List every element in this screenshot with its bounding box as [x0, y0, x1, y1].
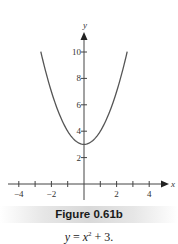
x-axis-arrow-icon: [161, 181, 169, 188]
x-axis-tick-labels: −4−224: [14, 189, 152, 199]
x-tick-label: 2: [114, 189, 119, 199]
equation-rest: + 3.: [92, 230, 114, 244]
x-tick-label: −4: [14, 189, 24, 199]
y-axis-tick-labels: 246810: [72, 47, 82, 163]
equation-equals: =: [70, 230, 83, 244]
y-axis: 246810 y: [72, 20, 88, 200]
y-tick-label: 4: [77, 126, 82, 136]
parabola-plot: −4−224 x 246810 y: [0, 0, 178, 205]
y-axis-arrow-icon: [81, 32, 88, 40]
x-tick-label: 4: [147, 189, 152, 199]
x-tick-label: −2: [47, 189, 57, 199]
y-tick-label: 2: [77, 153, 82, 163]
y-axis-label: y: [82, 20, 87, 30]
x-axis-label: x: [170, 179, 175, 189]
y-tick-label: 10: [72, 47, 82, 57]
x-axis: −4−224 x: [8, 179, 175, 199]
y-tick-label: 8: [77, 73, 82, 83]
figure-title: Figure 0.61b: [0, 207, 178, 222]
figure-equation: y = x2 + 3.: [0, 227, 178, 244]
y-tick-label: 6: [77, 100, 82, 110]
